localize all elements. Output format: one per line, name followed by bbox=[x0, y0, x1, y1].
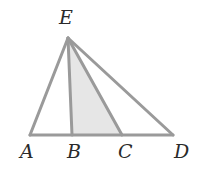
label-e: E bbox=[58, 6, 73, 28]
label-b: B bbox=[66, 140, 81, 162]
label-d: D bbox=[173, 140, 189, 162]
segment-ea bbox=[30, 38, 68, 135]
label-c: C bbox=[118, 140, 133, 162]
label-a: A bbox=[18, 140, 34, 162]
geometry-diagram: E A B C D bbox=[0, 0, 202, 174]
